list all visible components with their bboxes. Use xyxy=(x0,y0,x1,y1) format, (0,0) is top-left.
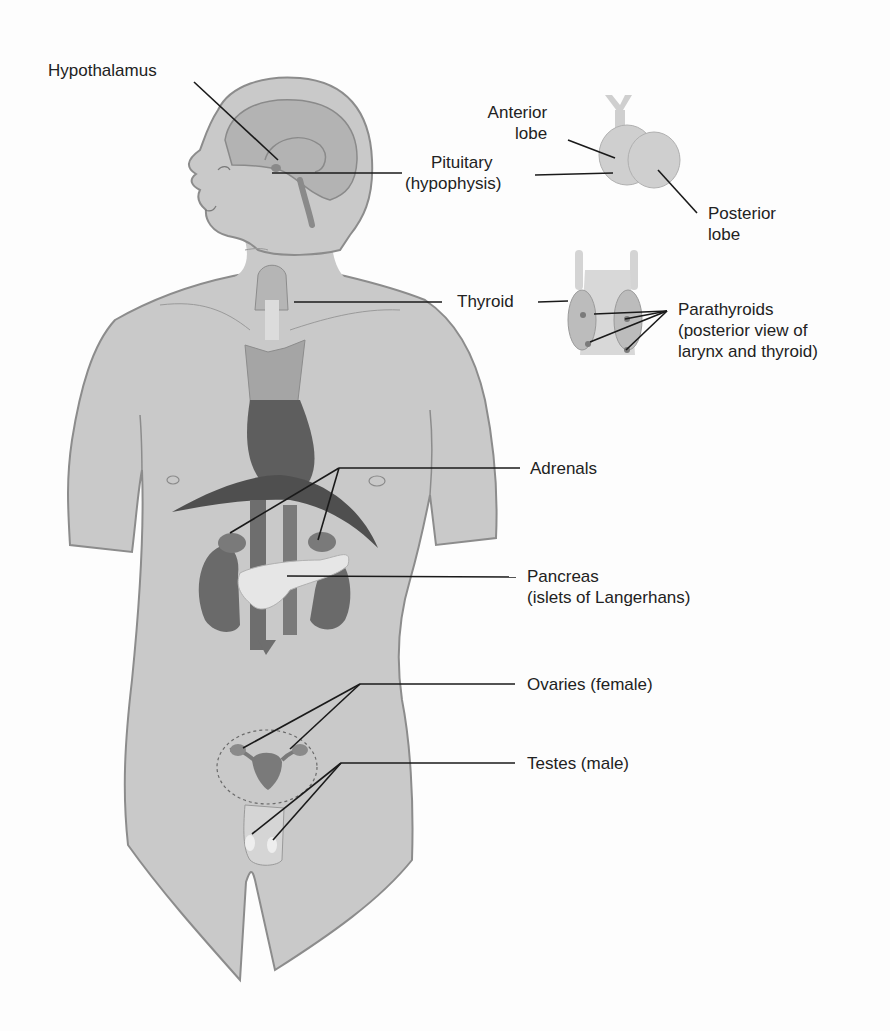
label-anterior-lobe: Anterior lobe xyxy=(483,102,547,144)
larynx-thyroid-inset xyxy=(568,250,642,355)
label-adrenals: Adrenals xyxy=(530,458,597,479)
endocrine-diagram: Hypothalamus Pituitary (hypophysis) Ante… xyxy=(0,0,890,1031)
label-parathyroids: Parathyroids (posterior view of larynx a… xyxy=(678,299,818,362)
label-thyroid: Thyroid xyxy=(457,291,514,312)
label-posterior-lobe: Posterior lobe xyxy=(708,203,776,245)
label-ovaries: Ovaries (female) xyxy=(527,674,653,695)
label-testes: Testes (male) xyxy=(527,753,629,774)
label-hypothalamus: Hypothalamus xyxy=(48,60,157,81)
label-pancreas: Pancreas (islets of Langerhans) xyxy=(527,566,690,608)
pituitary-inset xyxy=(599,95,680,188)
label-pituitary: Pituitary (hypophysis) xyxy=(405,152,501,194)
